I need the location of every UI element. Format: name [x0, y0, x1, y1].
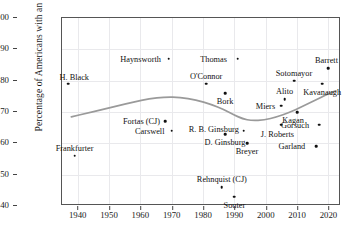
plot-area: FrankfurterH. BlackFortas (CJ)CarswellHa…: [61, 17, 340, 205]
y-axis-tick-mark: [13, 80, 17, 81]
x-axis-tick-mark: [234, 206, 235, 210]
data-point-label: Haynsworth: [120, 54, 161, 63]
x-axis-tick-mark: [203, 206, 204, 210]
data-point[interactable]: [73, 155, 76, 158]
data-point[interactable]: [205, 83, 208, 86]
gridline-vertical: [78, 18, 79, 204]
data-point-label: Frankfurter: [56, 143, 94, 152]
x-axis-tick-label: 1950: [100, 210, 118, 220]
x-axis-tick-label: 1940: [69, 210, 87, 220]
gridline-vertical: [328, 18, 329, 204]
data-point[interactable]: [293, 79, 296, 82]
data-point[interactable]: [167, 57, 170, 60]
data-point[interactable]: [280, 104, 283, 107]
x-axis-tick-label: 2000: [257, 210, 275, 220]
data-point[interactable]: [233, 195, 236, 198]
y-axis-tick-label: 40: [0, 200, 9, 210]
x-axis-tick-label: 1970: [163, 210, 181, 220]
y-axis-tick-mark: [13, 174, 17, 175]
x-axis-tick-label: 1980: [194, 210, 212, 220]
data-point-label: Carswell: [135, 126, 165, 135]
data-point-label: Sotomayor: [276, 68, 312, 77]
data-point[interactable]: [315, 145, 318, 148]
data-point[interactable]: [164, 120, 167, 123]
data-point-label: Bork: [217, 97, 234, 106]
y-axis-tick-label: 50: [0, 169, 9, 179]
data-point-label: Barrett: [315, 56, 338, 65]
y-axis-tick-mark: [13, 48, 17, 49]
y-axis-tick-mark: [13, 111, 17, 112]
x-axis-tick-mark: [297, 206, 298, 210]
data-point-label: Miers: [256, 101, 275, 110]
y-axis-tick-label: 70: [0, 106, 9, 116]
gridline-vertical: [266, 18, 267, 204]
x-axis-tick-label: 1990: [226, 210, 244, 220]
x-axis-tick-mark: [266, 206, 267, 210]
x-axis-tick-label: 1960: [132, 210, 150, 220]
gridline-vertical: [109, 18, 110, 204]
x-axis-tick-label: 2010: [288, 210, 306, 220]
data-point[interactable]: [327, 67, 330, 70]
y-axis-tick-mark: [13, 17, 17, 18]
x-axis-tick-mark: [328, 206, 329, 210]
data-point[interactable]: [246, 142, 249, 145]
y-axis-tick-label: 90: [0, 43, 9, 53]
data-point-label: Breyer: [236, 147, 259, 156]
y-axis-tick-label: 60: [0, 137, 9, 147]
data-point-label: O'Connor: [190, 71, 222, 80]
y-axis-label: Percentage of Americans with an opinion: [34, 0, 44, 146]
data-point-label: R. B. Ginsburg: [189, 124, 239, 133]
data-point-label: Thomas: [200, 54, 227, 63]
data-point[interactable]: [221, 186, 224, 189]
data-point[interactable]: [283, 98, 286, 101]
data-point[interactable]: [224, 92, 227, 95]
data-point-label: Alito: [276, 87, 293, 96]
data-point-label: H. Black: [60, 72, 90, 81]
data-point-label: Fortas (CJ): [123, 117, 160, 126]
data-point-label: Rehnquist (CJ): [197, 175, 247, 184]
data-point[interactable]: [67, 83, 70, 86]
x-axis-tick-mark: [172, 206, 173, 210]
x-axis-tick-label: 2020: [320, 210, 338, 220]
x-axis-tick-mark: [109, 206, 110, 210]
data-point[interactable]: [170, 130, 173, 133]
y-axis-tick-mark: [13, 205, 17, 206]
data-point[interactable]: [318, 123, 321, 126]
gridline-horizontal: [62, 49, 339, 50]
x-axis-tick-mark: [78, 206, 79, 210]
data-point-label: J. Roberts: [261, 129, 294, 138]
y-axis-tick-mark: [13, 142, 17, 143]
data-point-label: Kavanaugh: [303, 87, 341, 96]
gridline-vertical: [140, 18, 141, 204]
gridline-vertical: [172, 18, 173, 204]
x-axis-tick-mark: [140, 206, 141, 210]
scatter-chart: Percentage of Americans with an opinion …: [0, 0, 354, 248]
data-point[interactable]: [321, 83, 324, 86]
data-point[interactable]: [236, 57, 239, 60]
y-axis-tick-label: 100: [0, 12, 9, 22]
data-point[interactable]: [296, 111, 299, 114]
y-axis-tick-label: 80: [0, 75, 9, 85]
data-point[interactable]: [243, 130, 246, 133]
data-point-label: Garland: [279, 142, 306, 151]
data-point-label: D. Ginsburg: [205, 137, 246, 146]
gridline-horizontal: [62, 81, 339, 82]
data-point-label: Gorsuch: [281, 120, 309, 129]
